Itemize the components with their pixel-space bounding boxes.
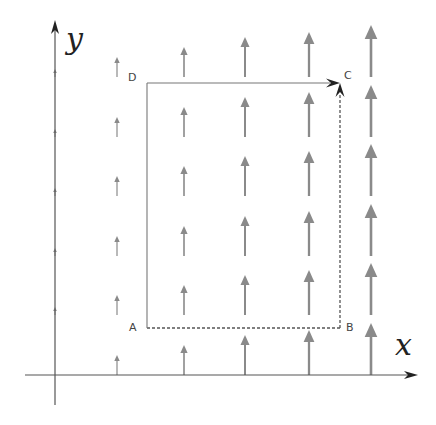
field-arrow <box>365 263 378 315</box>
point-label-d: D <box>128 72 136 83</box>
field-arrow <box>241 335 250 375</box>
path-arrowhead-icon <box>336 83 345 97</box>
field-arrow <box>180 285 187 315</box>
field-arrow <box>114 117 119 137</box>
field-arrow <box>304 211 315 256</box>
coordinate-axes <box>25 20 418 405</box>
field-arrow <box>114 57 119 77</box>
field-arrow <box>304 151 315 196</box>
field-arrow <box>304 270 315 315</box>
point-label-c: C <box>344 70 352 81</box>
field-arrow <box>241 216 250 256</box>
x-axis-label: x <box>395 330 412 360</box>
field-arrow <box>304 330 315 375</box>
field-arrow <box>365 323 378 375</box>
field-arrow <box>241 156 250 196</box>
field-arrow <box>180 345 187 375</box>
field-arrow <box>241 97 250 137</box>
field-arrow <box>365 204 378 256</box>
vector-field-arrows <box>53 25 377 375</box>
field-arrow <box>180 226 187 256</box>
field-arrow <box>304 32 315 77</box>
point-label-b: B <box>346 322 354 333</box>
field-arrow <box>365 25 378 77</box>
field-arrow <box>180 107 187 137</box>
field-arrow <box>114 236 119 256</box>
vector-field-diagram <box>0 0 436 425</box>
y-axis-label: y <box>66 24 83 54</box>
field-arrow <box>365 144 378 196</box>
field-arrow <box>114 295 119 315</box>
point-label-a: A <box>129 322 137 333</box>
field-arrow <box>180 166 187 196</box>
field-arrow <box>241 275 250 315</box>
field-arrow <box>241 37 250 77</box>
field-arrow <box>114 355 119 375</box>
field-arrow <box>180 47 187 77</box>
field-arrow <box>304 92 315 137</box>
field-arrow <box>365 85 378 137</box>
field-arrow <box>114 176 119 196</box>
